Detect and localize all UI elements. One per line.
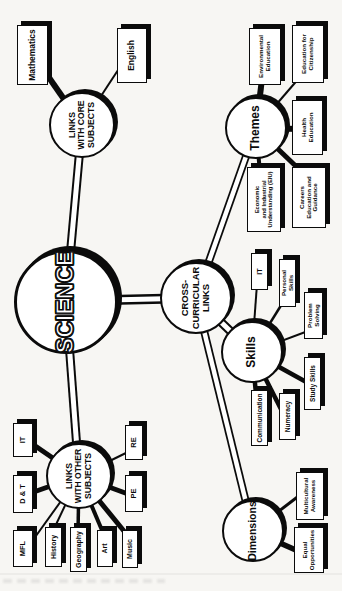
box-it-subject: IT xyxy=(13,423,33,457)
box-art: Art xyxy=(97,530,113,567)
other-subjects-hub-label: LINKS WITH OTHER SUBJECTS xyxy=(65,449,94,503)
box-study-skills: Study Skills xyxy=(304,357,321,410)
box-pe-label: PE xyxy=(130,489,138,499)
box-eiu: Economic and Industrial Understanding (E… xyxy=(247,167,281,232)
box-study-skills-label: Study Skills xyxy=(309,365,316,402)
other-subjects-hub-circle: LINKS WITH OTHER SUBJECTS xyxy=(46,443,112,509)
box-mfl: MFL xyxy=(13,530,33,567)
skills-hub-label: Skills xyxy=(245,336,258,367)
box-equal-opportunities: Equal Opportunities xyxy=(294,527,324,573)
box-mfl-label: MFL xyxy=(19,541,27,556)
box-geography-label: Geography xyxy=(75,531,83,568)
box-geography: Geography xyxy=(70,527,87,572)
skills-hub-circle: Skills xyxy=(221,321,283,383)
box-dt-label: D & T xyxy=(19,484,27,504)
box-eiu-label: Economic and Industrial Understanding (E… xyxy=(254,171,273,227)
box-history-label: History xyxy=(50,535,58,559)
themes-hub-circle: Themes xyxy=(225,97,287,159)
box-health-education-label: Health Education xyxy=(301,113,315,143)
box-pe: PE xyxy=(125,475,143,512)
box-mathematics-label: Mathematics xyxy=(28,29,38,81)
box-re-label: RE xyxy=(130,437,138,447)
box-careers-education: Careers Education and Guidance xyxy=(292,167,326,228)
cross-curricular-hub-circle: CROSS- CURRICULAR LINKS xyxy=(160,262,232,334)
box-history: History xyxy=(45,527,62,567)
box-music: Music xyxy=(122,530,138,568)
box-education-for-citizenship-label: Education for Citizenship xyxy=(301,34,315,74)
box-dt: D & T xyxy=(13,475,33,513)
science-hub-label: SCIENCE xyxy=(53,251,79,353)
box-personal-skills-label: Personal Skills xyxy=(281,261,295,305)
box-it-skill-label: IT xyxy=(256,268,264,274)
box-equal-opportunities-label: Equal Opportunities xyxy=(302,530,316,571)
science-hub-circle: SCIENCE xyxy=(14,250,118,354)
cross-curricular-hub-label: CROSS- CURRICULAR LINKS xyxy=(180,267,212,330)
core-subjects-hub-circle: LINKS WITH CORE SUBJECTS xyxy=(49,92,115,158)
box-english: English xyxy=(117,28,147,83)
faint-print-artifact-line xyxy=(0,573,342,575)
box-health-education: Health Education xyxy=(292,100,323,155)
box-environmental-education: Environmental Education xyxy=(249,28,281,85)
box-multicultural-awareness-label: Multicultural Awareness xyxy=(303,478,317,515)
dimensions-hub-circle: Dimensions xyxy=(222,500,284,562)
box-music-label: Music xyxy=(126,539,134,559)
box-mathematics: Mathematics xyxy=(17,25,48,85)
box-it-subject-label: IT xyxy=(19,437,27,444)
faint-print-artifact-caption xyxy=(3,579,165,583)
themes-hub-label: Themes xyxy=(249,105,262,150)
box-english-label: English xyxy=(127,40,137,71)
box-communication-label: Communication xyxy=(256,393,263,442)
box-education-for-citizenship: Education for Citizenship xyxy=(292,25,324,83)
box-personal-skills: Personal Skills xyxy=(279,259,296,307)
box-it-skill: IT xyxy=(251,253,268,290)
dimensions-hub-label: Dimensions xyxy=(247,501,259,561)
box-re: RE xyxy=(125,425,143,460)
box-problem-solving: Problem Solving xyxy=(304,292,323,339)
scanned-diagram-page: SCIENCE LINKS WITH CORE SUBJECTS LINKS W… xyxy=(0,0,342,591)
box-numeracy: Numeracy xyxy=(279,393,296,440)
box-multicultural-awareness: Multicultural Awareness xyxy=(296,472,324,520)
box-numeracy-label: Numeracy xyxy=(284,401,291,432)
core-subjects-hub-label: LINKS WITH CORE SUBJECTS xyxy=(68,100,97,149)
box-problem-solving-label: Problem Solving xyxy=(307,294,321,337)
box-communication: Communication xyxy=(251,390,268,446)
box-art-label: Art xyxy=(101,543,109,553)
box-environmental-education-label: Environmental Education xyxy=(258,35,272,78)
diagram-rotated-canvas: SCIENCE LINKS WITH CORE SUBJECTS LINKS W… xyxy=(0,0,342,591)
box-careers-education-label: Careers Education and Guidance xyxy=(299,176,320,219)
